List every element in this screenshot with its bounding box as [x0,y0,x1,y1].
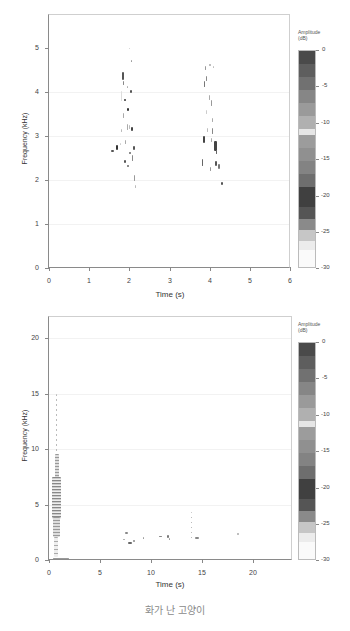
gridline [49,338,291,339]
colorbar-tick-label: -10 [321,411,330,417]
colorbar-tick [316,524,319,525]
x-tick-label: 5 [90,569,110,576]
y-axis-label-2: Frequency (kHz) [21,386,28,486]
y-tick-label: 0 [19,556,39,563]
spectrogram-figure-2: 0 5 10 15 20 0 5 10 15 20 [0,0,350,600]
x-tick-label: 0 [39,569,59,576]
y-tick [45,394,49,395]
plot-area-2: 0 5 10 15 20 0 5 10 15 20 [48,316,292,560]
colorbar-title-line: (dB) [298,327,320,333]
colorbar-2 [298,342,316,560]
colorbar-tick-label: -5 [322,374,327,380]
colorbar-tick [316,451,319,452]
colorbar-tick [316,342,319,343]
colorbar-tick [316,560,319,561]
colorbar-tick-label: 0 [322,338,325,344]
x-tick [100,559,101,563]
colorbar-title-2: Amplitude (dB) [298,321,320,333]
figure-caption: 화가 난 고양이 [0,602,350,617]
x-tick-label: 15 [192,569,212,576]
colorbar-tick-label: -15 [321,447,330,453]
x-tick-label: 10 [141,569,161,576]
y-tick [45,338,49,339]
y-tick-label: 20 [19,334,39,341]
x-tick [49,559,50,563]
y-tick [45,505,49,506]
colorbar-tick-label: -20 [321,484,330,490]
y-tick [45,449,49,450]
colorbar-tick-label: -25 [321,520,330,526]
x-tick-label: 20 [243,569,263,576]
colorbar-tick [316,415,319,416]
colorbar-tick [316,378,319,379]
x-tick [202,559,203,563]
gridline [49,394,291,395]
colorbar-tick-label: -30 [321,556,330,562]
x-tick [253,559,254,563]
x-axis-label-2: Time (s) [150,580,190,589]
y-tick-label: 5 [19,501,39,508]
colorbar-tick [316,488,319,489]
gridline [49,505,291,506]
x-tick [151,559,152,563]
gridline [49,449,291,450]
